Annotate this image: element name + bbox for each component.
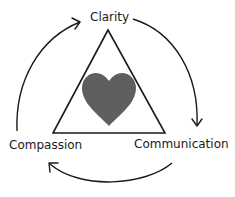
label-communication: Communication [134,137,229,151]
diagram-graphics [0,0,235,197]
arrow-communication-to-compassion [49,163,172,182]
cycle-diagram: Clarity Compassion Communication [0,0,235,197]
label-clarity: Clarity [90,10,129,24]
arrow-clarity-to-communication [133,19,202,126]
label-compassion: Compassion [9,138,82,152]
arrow-compassion-to-clarity [17,18,80,131]
heart-icon [82,73,136,126]
